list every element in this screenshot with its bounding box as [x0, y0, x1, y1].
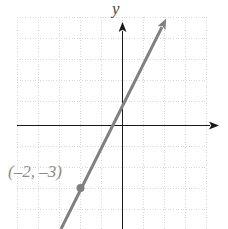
y-axis-label: y: [112, 0, 120, 17]
coordinate-plane-figure: y (–2, –3): [0, 0, 228, 229]
grid-vertical-lines: [18, 17, 207, 229]
plotted-line: [61, 27, 162, 229]
graph-canvas: [0, 0, 228, 229]
plotted-point-marker: [77, 184, 85, 192]
point-coordinate-label: (–2, –3): [8, 163, 62, 180]
